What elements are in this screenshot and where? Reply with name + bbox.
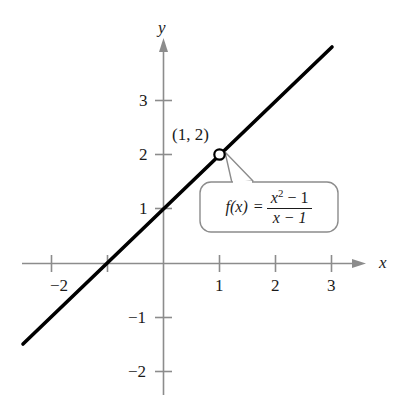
x-tick-label-1: 1 bbox=[215, 277, 224, 294]
y-tick-label-2: 2 bbox=[139, 146, 148, 163]
y-axis-label: y bbox=[158, 19, 166, 36]
graph-canvas bbox=[0, 0, 404, 404]
y-tick-label-3: 3 bbox=[139, 92, 148, 109]
function-graph-figure: −2 1 2 3 3 2 1 −1 −2 x y (1, 2) f(x) = x… bbox=[0, 0, 404, 404]
y-tick-label-1: 1 bbox=[139, 200, 148, 217]
x-axis-label: x bbox=[379, 254, 387, 271]
y-tick-label--1: −1 bbox=[128, 309, 146, 326]
open-circle-hole-marker bbox=[214, 149, 224, 159]
x-tick-label-2: 2 bbox=[271, 277, 280, 294]
callout-tail bbox=[225, 152, 253, 183]
y-tick-label--2: −2 bbox=[128, 363, 146, 380]
y-axis-arrowhead bbox=[159, 38, 168, 52]
callout-box bbox=[200, 182, 338, 232]
callout-bubble bbox=[200, 152, 338, 232]
point-coordinate-label: (1, 2) bbox=[172, 126, 209, 143]
x-tick-label--2: −2 bbox=[50, 277, 68, 294]
x-axis-arrowhead bbox=[352, 259, 366, 268]
x-tick-label-3: 3 bbox=[327, 277, 336, 294]
